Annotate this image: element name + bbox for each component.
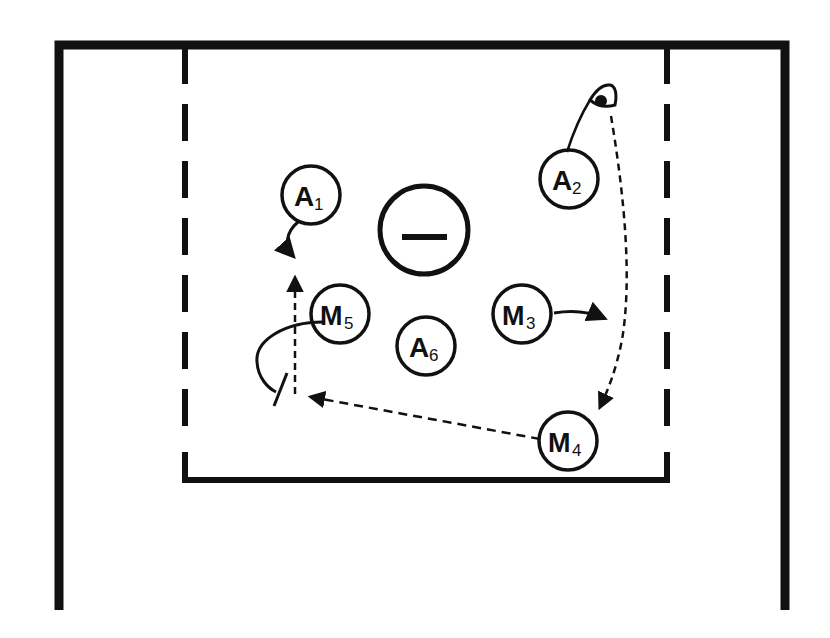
player-number: 6 xyxy=(429,346,438,365)
player-m5[interactable]: M 5 xyxy=(311,285,369,343)
player-letter: M xyxy=(320,301,343,331)
player-number: 1 xyxy=(314,195,323,214)
player-number: 2 xyxy=(572,179,581,198)
play-diagram: A 1 A 2 M 3 M 4 M 5 A 6 xyxy=(0,0,830,638)
a1-cut-arrow xyxy=(287,222,298,256)
player-number: 4 xyxy=(572,441,581,460)
ball-icon xyxy=(590,85,616,107)
player-number: 3 xyxy=(526,314,535,333)
pass-a2-to-m4 xyxy=(600,116,627,407)
player-letter: A xyxy=(552,165,572,196)
player-letter: A xyxy=(294,181,314,212)
player-m3[interactable]: M 3 xyxy=(493,285,551,343)
player-number: 5 xyxy=(344,314,353,333)
ball-handle-line xyxy=(567,100,590,152)
outer-frame xyxy=(59,45,785,610)
player-letter: M xyxy=(548,428,571,458)
minus-circle-icon xyxy=(380,186,468,274)
player-a2[interactable]: A 2 xyxy=(540,150,598,208)
player-letter: A xyxy=(409,332,429,363)
player-letter: M xyxy=(502,301,525,331)
screen-bar xyxy=(274,373,287,406)
player-a1[interactable]: A 1 xyxy=(282,166,340,224)
pass-m4-to-spot xyxy=(311,397,540,439)
m5-screen-path xyxy=(257,322,323,392)
zone-box xyxy=(185,47,667,480)
m3-cut-arrow xyxy=(554,312,604,318)
player-a6[interactable]: A 6 xyxy=(397,317,455,375)
player-m4[interactable]: M 4 xyxy=(539,412,597,470)
